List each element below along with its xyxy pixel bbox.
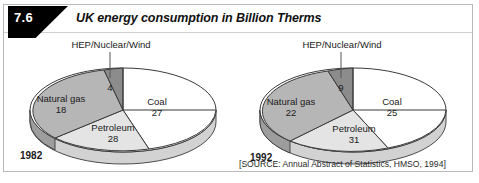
pie-chart-1982: HEP/Nuclear/Wind 4 Coal 27 Petroleum 28 …	[8, 38, 238, 168]
pie-1982-label-gas: Natural gas	[26, 93, 96, 104]
figure-panel: 7.6 UK energy consumption in Billion The…	[0, 0, 479, 183]
source-note: [SOURCE: Annual Abstract of Statistics, …	[239, 159, 446, 169]
pie-1992-value-gas: 22	[256, 107, 326, 118]
pie-1992-value-petroleum: 31	[320, 134, 388, 145]
header-divider	[4, 32, 472, 33]
pie-1982-value-hep: 4	[100, 82, 120, 93]
pie-1992-label-coal: Coal	[372, 96, 412, 107]
pie-1992-value-hep: 9	[331, 82, 351, 93]
pie-1982-value-coal: 27	[137, 107, 177, 118]
pie-1992-label-petroleum: Petroleum	[320, 123, 388, 134]
pie-1992-label-hep: HEP/Nuclear/Wind	[287, 39, 397, 50]
pie-1982-label-coal: Coal	[137, 96, 177, 107]
pie-1992-value-coal: 25	[372, 107, 412, 118]
pie-1982-label-hep: HEP/Nuclear/Wind	[56, 39, 166, 50]
pie-1982-label-petroleum: Petroleum	[79, 122, 147, 133]
pie-chart-1992: HEP/Nuclear/Wind 9 Coal 25 Petroleum 31 …	[238, 38, 468, 168]
figure-title: UK energy consumption in Billion Therms	[76, 11, 321, 25]
pie-1982-value-gas: 18	[26, 104, 96, 115]
pie-1982-value-petroleum: 28	[79, 133, 147, 144]
pie-1982-year: 1982	[20, 150, 56, 161]
figure-number: 7.6	[14, 11, 33, 24]
pie-1992-label-gas: Natural gas	[256, 96, 326, 107]
